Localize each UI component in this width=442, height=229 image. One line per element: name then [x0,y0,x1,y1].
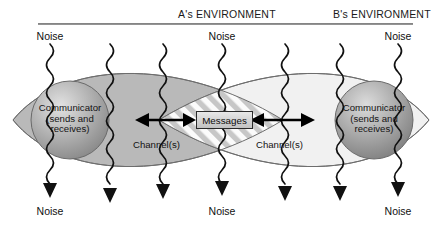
channel-left-label: Channel(s) [133,139,180,150]
noise-arrowhead-group [43,181,405,203]
noise-arrowhead-7 [391,182,405,197]
noise-arrowhead-6 [333,186,347,201]
communication-model-diagram: A's ENVIRONMENT B's ENVIRONMENT [0,0,442,229]
noise-arrowhead-4 [215,181,229,196]
communicator-a-line3: receives) [31,124,109,135]
channel-right-label: Channel(s) [256,139,303,150]
noise-label-top-right: Noise [371,30,425,42]
communicator-b-line1: Communicator [335,103,413,114]
noise-label-bottom-right: Noise [371,205,425,217]
messages-box: Messages [196,111,253,129]
messages-label: Messages [202,115,247,126]
noise-arrowhead-1 [43,183,57,198]
noise-label-top-left: Noise [23,30,77,42]
communicator-a-line1: Communicator [31,103,109,114]
communicator-b-line3: receives) [335,124,413,135]
noise-label-bottom-left: Noise [23,205,77,217]
noise-arrowhead-5 [278,186,292,201]
noise-arrowhead-2 [103,188,117,203]
noise-label-bottom-center: Noise [195,205,249,217]
noise-arrowhead-3 [156,184,170,199]
noise-label-top-center: Noise [195,30,249,42]
